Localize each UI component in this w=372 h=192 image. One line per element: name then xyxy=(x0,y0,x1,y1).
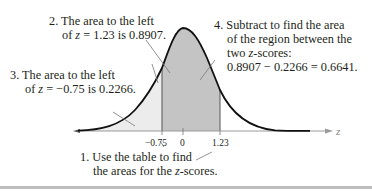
callout-1-line1: 1. Use the table to find xyxy=(80,150,218,164)
callout-1: 1. Use the table to find the areas for t… xyxy=(80,150,218,178)
callout-3-line2: of z = −0.75 is 0.2266. xyxy=(10,82,136,96)
callout-3: 3. The area to the left of z = −0.75 is … xyxy=(10,68,136,96)
callout-4-line2: of the region between the xyxy=(214,32,358,46)
callout-1-line2: the areas for the z-scores. xyxy=(80,164,218,178)
bottom-divider xyxy=(0,186,372,189)
callout-4-line3: two z-scores: xyxy=(214,46,358,60)
callout-4-line4: 0.8907 − 0.2266 = 0.6641. xyxy=(214,60,358,74)
callout-2: 2. The area to the left of z = 1.23 is 0… xyxy=(49,14,166,42)
callout-2-line1: 2. The area to the left xyxy=(49,14,166,28)
tick-label-neg075: −0.75 xyxy=(145,138,167,148)
tick-label-0: 0 xyxy=(180,138,185,148)
callout-3-line1: 3. The area to the left xyxy=(10,68,136,82)
callout-2-line2: of z = 1.23 is 0.8907. xyxy=(49,28,166,42)
axis-arrow-right-icon xyxy=(325,129,333,134)
tick-label-123: 1.23 xyxy=(212,138,229,148)
axis-variable-label: z xyxy=(336,124,340,138)
callout-4-line1: 4. Subtract to find the area xyxy=(214,18,358,32)
callout-4: 4. Subtract to find the area of the regi… xyxy=(214,18,358,74)
